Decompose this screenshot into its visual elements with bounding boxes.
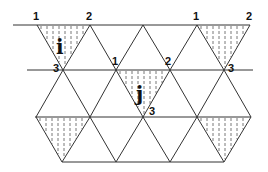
diagonal-edge xyxy=(224,70,251,117)
triangle-label-i: i xyxy=(56,35,64,59)
diagonal-edge xyxy=(197,70,224,117)
lattice-lines xyxy=(13,25,253,162)
triangle-bottom-left xyxy=(40,118,82,158)
diagonal-edge xyxy=(90,70,116,117)
diagonal-edge xyxy=(197,25,224,70)
diagonal-edge xyxy=(116,117,143,162)
diagonal-edge xyxy=(170,25,197,70)
triangle-top-right xyxy=(201,26,243,67)
diagonal-edge xyxy=(36,70,63,117)
diagonal-edge xyxy=(197,117,224,162)
vertex-label-j-1: 1 xyxy=(112,55,118,67)
vertex-label-i-2: 2 xyxy=(86,10,92,22)
diagonal-edge xyxy=(63,25,90,70)
vertex-label-j-3: 3 xyxy=(149,105,155,117)
diagonal-edge xyxy=(90,117,116,162)
triangle-label-j: j xyxy=(134,82,143,106)
diagonal-edge xyxy=(224,117,251,162)
triangular-lattice-diagram: i j 1 2 3 1 2 3 1 2 3 xyxy=(0,0,268,172)
vertex-label-i-1: 1 xyxy=(33,10,39,22)
diagonal-edge xyxy=(63,70,90,117)
diagonal-edge xyxy=(170,117,197,162)
diagonal-edge xyxy=(143,117,170,162)
vertex-label-right-2: 2 xyxy=(246,10,252,22)
diagonal-edge xyxy=(170,70,197,117)
vertex-label-right-1: 1 xyxy=(193,10,199,22)
vertex-label-j-2: 2 xyxy=(165,55,171,67)
vertex-label-right-3: 3 xyxy=(228,62,234,74)
diagonal-edge xyxy=(116,25,143,70)
triangle-bottom-right xyxy=(201,118,243,159)
diagonal-edge xyxy=(143,70,170,117)
vertex-label-i-3: 3 xyxy=(53,62,59,74)
